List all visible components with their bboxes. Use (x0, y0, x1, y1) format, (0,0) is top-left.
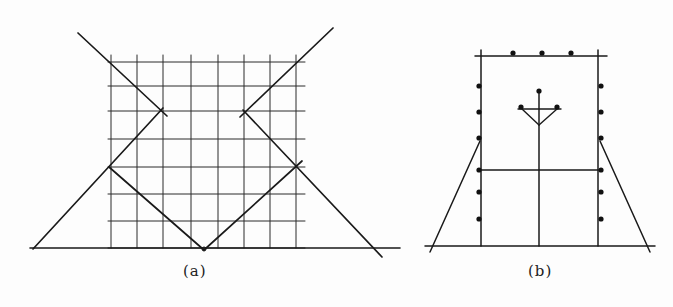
upper-right-diagonal (240, 28, 333, 117)
fork-dot (554, 104, 559, 109)
left-dot (476, 189, 481, 194)
right-dot (598, 83, 603, 88)
fork-arm-left (522, 109, 539, 125)
top-dot (539, 50, 544, 55)
left-rising-diagonal (33, 108, 163, 249)
caption-a: (a) (183, 262, 207, 280)
left-dot (476, 216, 481, 221)
right-dot (598, 135, 603, 140)
right-rising-from-vertex (204, 161, 302, 250)
top-dot (568, 50, 573, 55)
left-dot (476, 167, 481, 172)
diagram-canvas (0, 0, 673, 307)
fork-dot (536, 88, 541, 93)
left-dot (476, 83, 481, 88)
left-dot (476, 135, 481, 140)
right-dot (598, 167, 603, 172)
left-strut (430, 141, 480, 252)
right-dot (598, 109, 603, 114)
right-falling-diagonal (243, 110, 382, 257)
upper-left-diagonal (78, 33, 167, 116)
right-strut (600, 141, 650, 252)
right-dot (598, 216, 603, 221)
left-dot (476, 109, 481, 114)
right-dot (598, 189, 603, 194)
fork-dot (518, 104, 523, 109)
top-dot (510, 50, 515, 55)
fork-arm-right (539, 109, 557, 125)
caption-b: (b) (528, 262, 552, 280)
left-falling-to-vertex (109, 167, 204, 250)
panel-a (30, 28, 400, 257)
panel-b (425, 50, 655, 252)
